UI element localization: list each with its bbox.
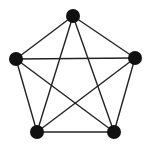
node-bottom-left [30, 125, 44, 139]
node-right [128, 51, 142, 65]
complete-graph-diagram [0, 0, 151, 146]
edge-left-right [16, 58, 135, 59]
node-left [9, 52, 23, 66]
node-top [66, 9, 80, 23]
node-bottom-right [107, 125, 121, 139]
